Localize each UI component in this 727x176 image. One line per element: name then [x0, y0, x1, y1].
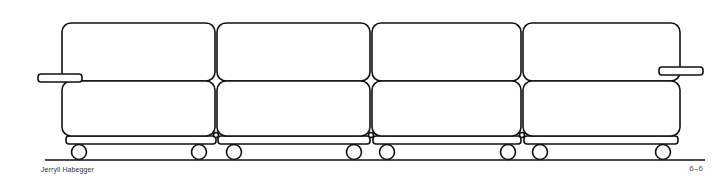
- caster-wheels: [72, 145, 671, 160]
- seat-cushions: [62, 81, 680, 136]
- sofa-drawing: [0, 0, 727, 176]
- side-tray-left: [38, 74, 82, 82]
- side-tray-right: [659, 67, 703, 75]
- figure-number: 6–6: [689, 164, 703, 173]
- backrest-cushions: [62, 23, 680, 81]
- artist-credit: Jerryll Habegger: [41, 166, 94, 173]
